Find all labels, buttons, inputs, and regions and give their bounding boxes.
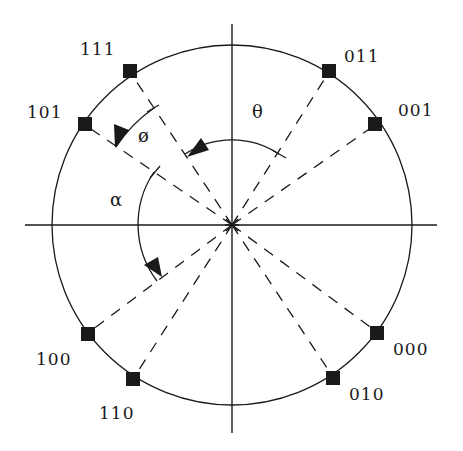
point-marker-111 — [123, 64, 137, 78]
radial-line-110 — [133, 225, 232, 379]
radial-line-001 — [232, 125, 375, 225]
radial-line-101 — [85, 125, 232, 225]
label-011: 011 — [344, 46, 379, 66]
label-111: 111 — [80, 39, 115, 59]
phi-arrowhead — [114, 124, 129, 148]
label-theta: θ — [252, 101, 263, 122]
point-marker-011 — [322, 64, 336, 78]
label-alpha: α — [110, 189, 122, 210]
diagram-canvas: 111 101 011 001 100 110 000 010 θ ø α — [0, 0, 463, 451]
point-marker-100 — [81, 327, 95, 341]
label-010: 010 — [349, 384, 384, 404]
label-000: 000 — [393, 339, 428, 359]
radial-line-000 — [232, 225, 377, 332]
label-101: 101 — [27, 102, 62, 122]
label-110: 110 — [99, 403, 134, 423]
alpha-arrowhead — [144, 257, 162, 277]
point-marker-000 — [370, 326, 384, 340]
radial-line-010 — [232, 225, 333, 377]
radial-line-100 — [88, 225, 232, 333]
radial-line-111 — [130, 72, 232, 225]
point-marker-101 — [78, 117, 92, 131]
psk-constellation-diagram: 111 101 011 001 100 110 000 010 θ ø α — [0, 0, 463, 451]
point-marker-001 — [368, 117, 382, 131]
point-marker-010 — [326, 371, 340, 385]
theta-arrowhead — [187, 138, 209, 157]
radial-line-011 — [232, 72, 329, 225]
label-phi: ø — [138, 125, 149, 146]
label-100: 100 — [36, 349, 71, 369]
label-001: 001 — [398, 100, 433, 120]
point-marker-110 — [126, 372, 140, 386]
